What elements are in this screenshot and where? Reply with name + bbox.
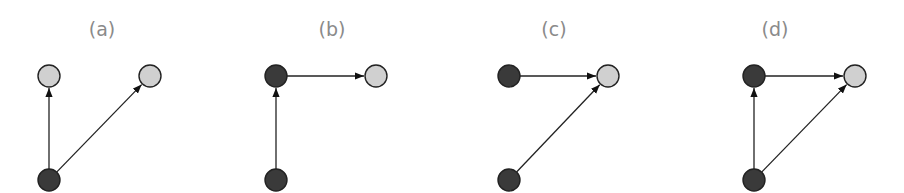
node-top-right-latent [365,65,387,87]
node-top-left-latent [38,65,60,87]
node-bottom-observed [38,169,60,191]
panel-label: (b) [319,18,346,40]
node-top-right-latent [844,65,866,87]
node-top-left-observed [743,65,765,87]
causal-graph-figure: (a)(b)(c)(d) [0,0,904,193]
panel-label: (a) [89,18,115,40]
node-bottom-observed [498,169,520,191]
node-top-left-observed [265,65,287,87]
panel-label: (c) [541,18,566,40]
node-bottom-observed [743,169,765,191]
panel-b: (b) [265,18,387,191]
panel-label: (d) [762,18,789,40]
node-top-right-latent [139,65,161,87]
node-bottom-observed [265,169,287,191]
panel-d: (d) [743,18,866,191]
node-top-left-observed [498,65,520,87]
panel-a: (a) [38,18,161,191]
edge-bottom-to-top-right [762,85,847,173]
edge-bottom-to-top-right [517,85,600,172]
edge-bottom-to-top-right [57,85,142,173]
panel-c: (c) [498,18,619,191]
node-top-right-latent [597,65,619,87]
